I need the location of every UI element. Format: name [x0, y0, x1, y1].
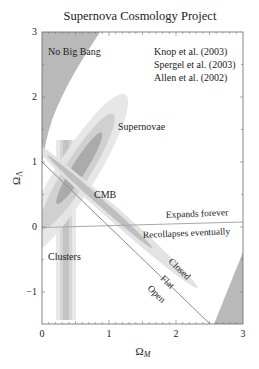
y-axis-label: ΩΛ: [10, 171, 24, 185]
cosmology-chart: Supernova Cosmology Project: [0, 0, 259, 369]
clusters-label: Clusters: [48, 251, 81, 262]
x-tick-1: 1: [107, 328, 112, 339]
chart-title: Supernova Cosmology Project: [64, 9, 217, 23]
recollapses-label: Recollapses eventually: [143, 226, 231, 240]
x-tick-0: 0: [40, 328, 45, 339]
y-tick-minus1: −1: [26, 286, 37, 297]
x-tick-2: 2: [174, 328, 179, 339]
x-axis-label: ΩM: [136, 345, 152, 359]
no-big-bang-label: No Big Bang: [48, 46, 101, 57]
expands-forever-label: Expands forever: [166, 207, 230, 220]
open-label: Open: [146, 283, 168, 305]
reference-spergel: Spergel et al. (2003): [154, 59, 235, 71]
y-tick-0: 0: [32, 221, 37, 232]
x-tick-3: 3: [241, 328, 246, 339]
cmb-label: CMB: [94, 189, 117, 200]
y-tick-3: 3: [32, 26, 37, 37]
reference-allen: Allen et al. (2002): [154, 72, 227, 84]
y-tick-2: 2: [32, 91, 37, 102]
supernovae-label: Supernovae: [118, 121, 166, 132]
lower-right-region: [214, 252, 243, 324]
reference-knop: Knop et al. (2003): [154, 46, 227, 58]
flat-label: Flat: [159, 273, 177, 291]
y-tick-1: 1: [32, 156, 37, 167]
